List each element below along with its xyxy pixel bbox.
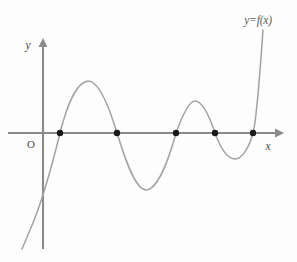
curve-label: y=f(x) (243, 14, 272, 27)
x-axis-arrowhead (275, 129, 284, 138)
root-dot (250, 130, 256, 136)
root-dot (173, 130, 179, 136)
root-dot (114, 130, 120, 136)
root-dot (57, 130, 63, 136)
y-axis-label: y (24, 39, 31, 52)
function-curve (22, 30, 263, 249)
figure-root: y x O y=f(x) (0, 0, 297, 262)
root-dot (212, 130, 218, 136)
x-axis-label: x (264, 140, 271, 152)
function-plot: y x O y=f(x) (0, 0, 297, 262)
y-axis-arrowhead (39, 38, 48, 47)
origin-label: O (27, 138, 35, 150)
